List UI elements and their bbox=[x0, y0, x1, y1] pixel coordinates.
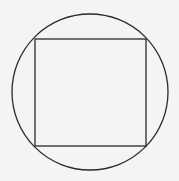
inscribed-square bbox=[35, 39, 146, 146]
diagram-canvas bbox=[0, 0, 179, 181]
